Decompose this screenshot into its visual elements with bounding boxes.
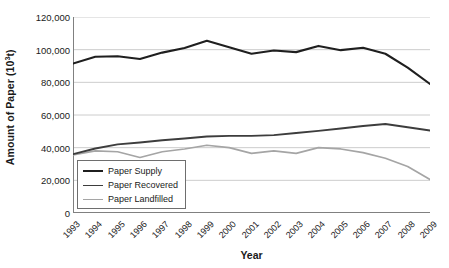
series-line — [73, 41, 430, 84]
legend-color-swatch — [83, 199, 103, 200]
x-axis-title: Year — [73, 249, 430, 261]
legend-item: Paper Recovered — [82, 178, 181, 192]
y-axis-tick-label: 0 — [18, 208, 70, 219]
y-axis-tick-label: 120,000 — [18, 12, 70, 23]
chart-legend: Paper SupplyPaper RecoveredPaper Landfil… — [77, 160, 186, 209]
legend-label: Paper Landfilled — [108, 194, 173, 204]
legend-label: Paper Recovered — [108, 180, 178, 190]
legend-color-swatch — [83, 170, 103, 172]
legend-item: Paper Landfilled — [82, 192, 181, 206]
series-line — [73, 124, 430, 154]
legend-color-swatch — [83, 185, 103, 186]
legend-item: Paper Supply — [82, 164, 181, 178]
y-axis-tick-label: 100,000 — [18, 44, 70, 55]
y-axis-tick-label: 20,000 — [18, 175, 70, 186]
y-axis-title-superscript: 3 — [4, 57, 11, 61]
y-axis-tick-label: 60,000 — [18, 110, 70, 121]
paper-flow-line-chart: Amount of Paper (103t) 020,00040,00060,0… — [0, 0, 449, 268]
legend-label: Paper Supply — [108, 166, 162, 176]
y-axis-title-base: Amount of Paper (10 — [4, 61, 16, 166]
y-axis-title-tail: t) — [4, 50, 16, 57]
y-axis-tick-label: 80,000 — [18, 77, 70, 88]
y-axis-tick-label: 40,000 — [18, 142, 70, 153]
y-axis-tick-labels: 020,00040,00060,00080,000100,000120,000 — [16, 0, 70, 268]
